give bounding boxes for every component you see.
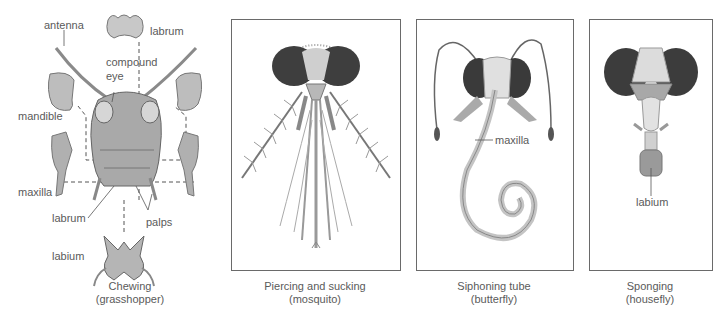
- caption-title: Chewing: [80, 280, 180, 293]
- caption-title: Sponging: [605, 280, 695, 293]
- label-maxilla: maxilla: [495, 134, 529, 146]
- caption-sponging: Sponging (housefly): [605, 280, 695, 306]
- caption-subtitle: (housefly): [605, 293, 695, 306]
- label-maxilla: maxilla: [18, 186, 52, 198]
- caption-subtitle: (grasshopper): [80, 293, 180, 306]
- caption-title: Piercing and sucking: [245, 280, 385, 293]
- grasshopper-mouthparts-illustration: [0, 0, 240, 320]
- label-labrum-top: labrum: [150, 25, 184, 37]
- label-labium: labium: [636, 196, 668, 208]
- caption-siphoning: Siphoning tube (butterfly): [434, 280, 554, 306]
- caption-title: Siphoning tube: [434, 280, 554, 293]
- housefly-mouthparts-illustration: [590, 20, 712, 270]
- label-compound-eye-line1: compound: [106, 56, 157, 68]
- label-compound-eye-line2: eye: [106, 70, 124, 82]
- label-palps: palps: [146, 216, 172, 228]
- label-labium: labium: [52, 250, 84, 262]
- caption-subtitle: (mosquito): [245, 293, 385, 306]
- caption-subtitle: (butterfly): [434, 293, 554, 306]
- caption-chewing: Chewing (grasshopper): [80, 280, 180, 306]
- label-mandible: mandible: [18, 110, 63, 122]
- panel-piercing-frame: [231, 19, 401, 271]
- mosquito-mouthparts-illustration: [232, 20, 400, 270]
- caption-piercing: Piercing and sucking (mosquito): [245, 280, 385, 306]
- label-labrum-bottom: labrum: [52, 212, 86, 224]
- panel-sponging-frame: labium: [589, 19, 713, 271]
- panel-siphoning-frame: maxilla: [416, 19, 574, 271]
- label-antenna: antenna: [44, 19, 84, 31]
